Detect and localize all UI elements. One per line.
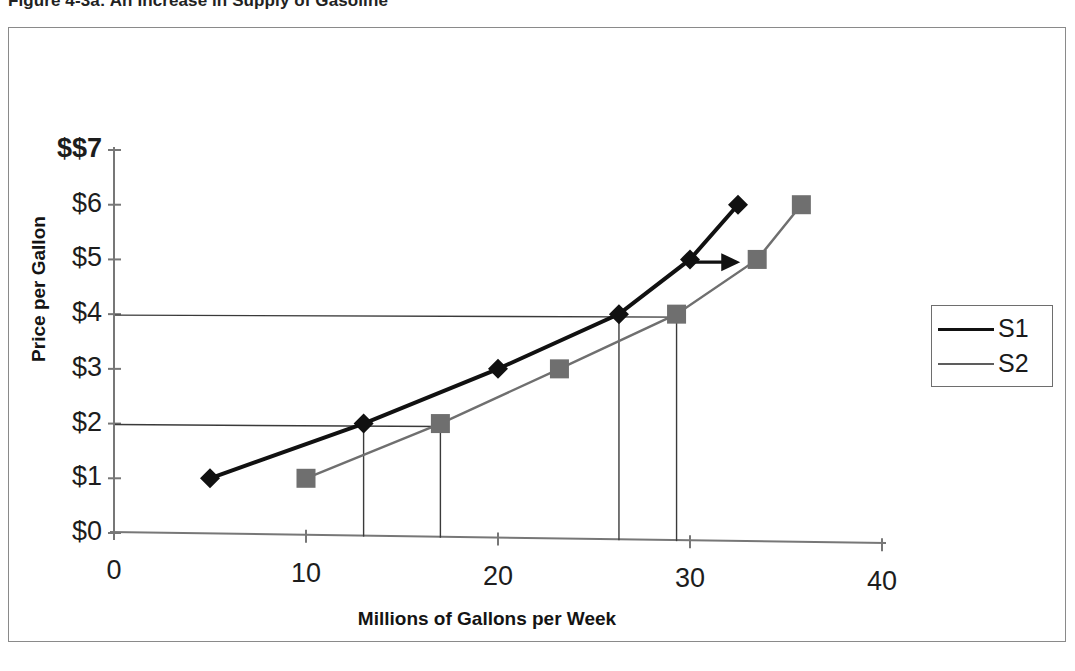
chart-legend: S1 S2 <box>931 305 1053 387</box>
legend-swatch-s2 <box>938 354 994 374</box>
y-tick-label-1: $1 <box>36 463 102 490</box>
x-axis-title: Millions of Gallons per Week <box>287 608 687 630</box>
y-tick-label-0: $0 <box>36 518 102 545</box>
legend-item-s1[interactable]: S1 <box>938 316 1046 341</box>
x-tick-label-40: 40 <box>852 568 912 595</box>
chart-frame <box>8 27 1066 642</box>
y-tick-label-7: $$7 <box>26 135 102 162</box>
x-tick-label-0: 0 <box>84 557 144 584</box>
x-tick-label-20: 20 <box>468 563 528 590</box>
y-axis-title: Price per Gallon <box>28 184 50 394</box>
y-tick-label-2: $2 <box>36 409 102 436</box>
legend-label-s2: S2 <box>998 351 1029 376</box>
figure-title: Figure 4-3a: An Increase in Supply of Ga… <box>8 0 388 11</box>
x-tick-label-30: 30 <box>660 565 720 592</box>
legend-item-s2[interactable]: S2 <box>938 351 1046 376</box>
x-tick-label-10: 10 <box>276 560 336 587</box>
legend-swatch-s1 <box>938 319 994 339</box>
legend-label-s1: S1 <box>998 316 1029 341</box>
